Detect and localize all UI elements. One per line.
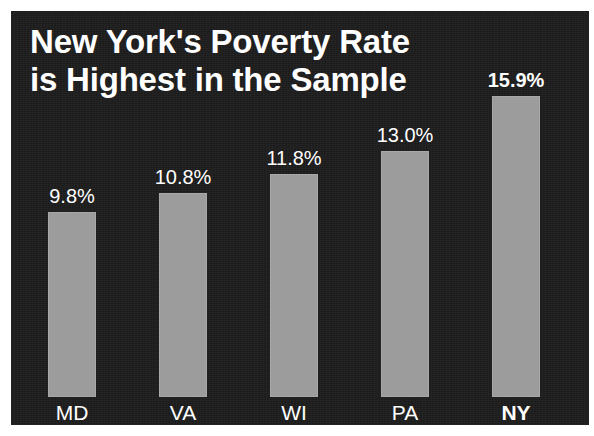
bar-group-ny: 15.9%NY — [464, 47, 568, 397]
bar-group-wi: 11.8%WI — [242, 47, 346, 397]
bar-category-label-md: MD — [56, 402, 89, 423]
bar-category-label-pa: PA — [392, 402, 418, 423]
bar-value-label-wi: 11.8% — [266, 148, 321, 168]
bar-value-label-pa: 13.0% — [377, 125, 434, 145]
bar-category-label-va: VA — [170, 402, 196, 423]
bar-wi[interactable] — [270, 174, 318, 397]
chart-panel-background: New York's Poverty Rate is Highest in th… — [11, 11, 589, 425]
bar-pa[interactable] — [381, 151, 429, 397]
bar-group-va: 10.8%VA — [131, 47, 235, 397]
bar-group-md: 9.8%MD — [20, 47, 124, 397]
chart-figure: New York's Poverty Rate is Highest in th… — [0, 0, 594, 436]
bar-category-label-ny: NY — [501, 402, 530, 423]
bar-md[interactable] — [48, 212, 96, 397]
bar-va[interactable] — [159, 193, 207, 397]
bar-value-label-va: 10.8% — [155, 167, 212, 187]
bar-category-label-wi: WI — [281, 402, 307, 423]
chart-title: New York's Poverty Rate is Highest in th… — [30, 23, 550, 99]
bar-ny[interactable] — [492, 96, 540, 397]
bar-group-pa: 13.0%PA — [353, 47, 457, 397]
bar-value-label-md: 9.8% — [49, 186, 95, 206]
